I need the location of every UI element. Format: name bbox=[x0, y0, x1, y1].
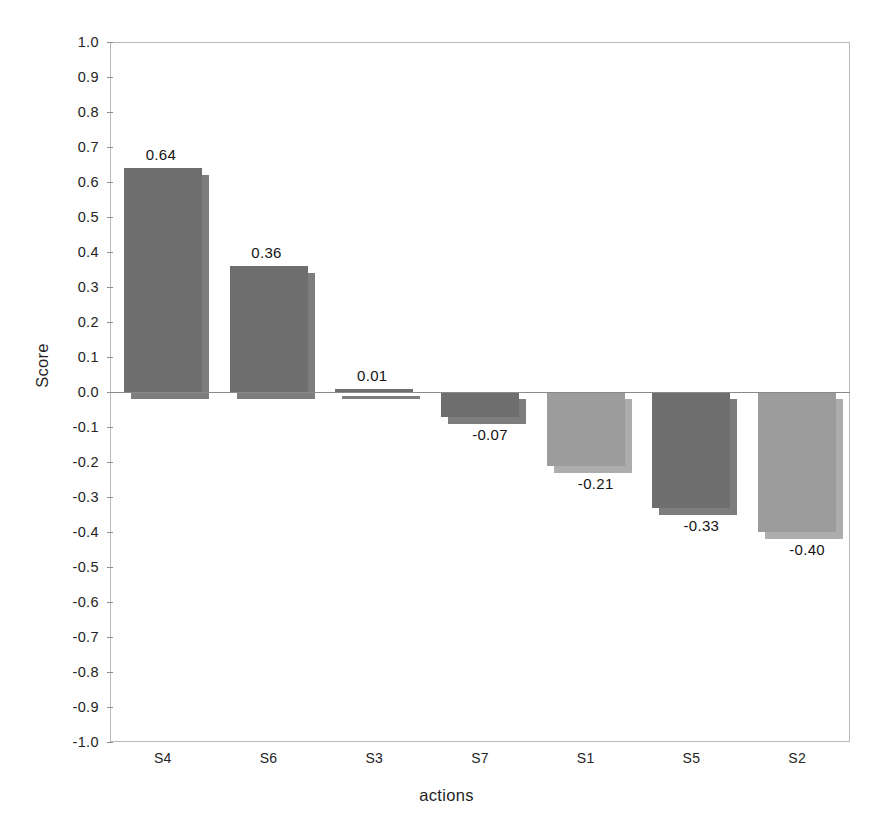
y-tick-label: -1.0 bbox=[72, 735, 99, 750]
y-tick-label: -0.1 bbox=[72, 420, 99, 435]
x-tick-label-S3: S3 bbox=[365, 750, 383, 766]
bar-S2[interactable] bbox=[758, 392, 836, 532]
x-tick-label-S7: S7 bbox=[471, 750, 489, 766]
bar-value-label: -0.33 bbox=[684, 517, 720, 534]
y-tick-label: 0.7 bbox=[78, 140, 99, 155]
y-tick-mark bbox=[107, 322, 113, 323]
y-tick-label: 0.5 bbox=[78, 210, 99, 225]
x-tick-label-S5: S5 bbox=[683, 750, 701, 766]
y-tick-mark bbox=[107, 567, 113, 568]
x-tick-label-S1: S1 bbox=[577, 750, 595, 766]
y-tick-mark bbox=[107, 252, 113, 253]
y-tick-mark bbox=[107, 427, 113, 428]
y-tick-mark bbox=[107, 672, 113, 673]
y-tick-label: -0.2 bbox=[72, 455, 99, 470]
y-tick-label: -0.5 bbox=[72, 560, 99, 575]
bar-S4[interactable] bbox=[124, 168, 202, 392]
y-tick-label: 0.2 bbox=[78, 315, 99, 330]
bar-value-label: 0.36 bbox=[251, 244, 281, 261]
y-tick-mark bbox=[107, 217, 113, 218]
bar-S7[interactable] bbox=[441, 392, 519, 417]
y-tick-label: -0.4 bbox=[72, 525, 99, 540]
y-tick-mark bbox=[107, 77, 113, 78]
y-tick-label: 0.1 bbox=[78, 350, 99, 365]
y-tick-mark bbox=[107, 112, 113, 113]
y-tick-mark bbox=[107, 602, 113, 603]
bar-chart-figure: Score 1.00.90.80.70.60.50.40.30.20.10.0-… bbox=[0, 0, 893, 832]
bar-value-label: 0.64 bbox=[146, 146, 176, 163]
y-tick-mark bbox=[107, 182, 113, 183]
y-tick-label: 0.3 bbox=[78, 280, 99, 295]
y-tick-mark bbox=[107, 357, 113, 358]
y-tick-mark bbox=[107, 532, 113, 533]
bar-shadow bbox=[342, 396, 420, 400]
y-tick-label: 0.8 bbox=[78, 105, 99, 120]
y-tick-label: 0.9 bbox=[78, 70, 99, 85]
y-tick-label: -0.6 bbox=[72, 595, 99, 610]
y-tick-label: -0.3 bbox=[72, 490, 99, 505]
bar-S6[interactable] bbox=[230, 266, 308, 392]
bar-S1[interactable] bbox=[547, 392, 625, 466]
y-tick-label: 0.0 bbox=[78, 385, 99, 400]
zero-baseline bbox=[110, 392, 850, 393]
bar-value-label: 0.01 bbox=[357, 367, 387, 384]
y-tick-label: 0.6 bbox=[78, 175, 99, 190]
y-tick-label: 1.0 bbox=[78, 35, 99, 50]
bar-value-label: -0.07 bbox=[472, 426, 508, 443]
x-tick-label-S2: S2 bbox=[788, 750, 806, 766]
x-tick-label-S6: S6 bbox=[260, 750, 278, 766]
y-tick-mark bbox=[107, 147, 113, 148]
y-tick-label: -0.9 bbox=[72, 700, 99, 715]
y-tick-label: 0.4 bbox=[78, 245, 99, 260]
y-tick-mark bbox=[107, 742, 113, 743]
y-axis-title: Score bbox=[33, 316, 52, 416]
y-tick-mark bbox=[107, 707, 113, 708]
y-tick-mark bbox=[107, 497, 113, 498]
bar-value-label: -0.21 bbox=[578, 475, 614, 492]
y-tick-label: -0.7 bbox=[72, 630, 99, 645]
bar-S5[interactable] bbox=[652, 392, 730, 508]
y-tick-mark bbox=[107, 42, 113, 43]
y-tick-mark bbox=[107, 637, 113, 638]
x-axis-title: actions bbox=[0, 786, 893, 805]
y-tick-mark bbox=[107, 462, 113, 463]
x-tick-label-S4: S4 bbox=[154, 750, 172, 766]
y-tick-label: -0.8 bbox=[72, 665, 99, 680]
bar-value-label: -0.40 bbox=[789, 541, 825, 558]
y-tick-mark bbox=[107, 287, 113, 288]
